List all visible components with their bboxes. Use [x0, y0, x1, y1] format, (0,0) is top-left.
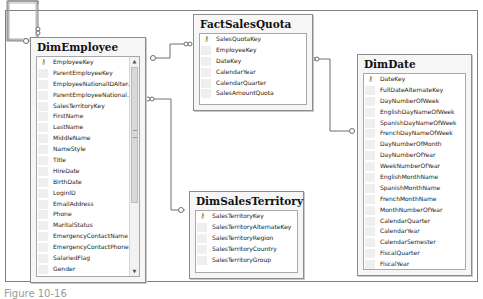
row-selector[interactable]	[365, 97, 375, 106]
column-row[interactable]: FullDateAlternateKey	[364, 85, 465, 96]
column-row[interactable]: Gender	[37, 264, 139, 275]
column-row[interactable]: SalariedFlag	[37, 253, 139, 264]
column-row[interactable]: DayNumberOfMonth	[364, 139, 465, 150]
row-selector[interactable]	[365, 173, 375, 182]
column-row[interactable]: NameStyle	[37, 144, 139, 155]
column-row[interactable]: CalendarQuarter	[364, 216, 465, 227]
column-row[interactable]: FiscalYear	[364, 259, 465, 270]
table-dim-sales-territory[interactable]: DimSalesTerritory ⚷SalesTerritoryKeySale…	[189, 191, 304, 279]
row-selector[interactable]	[38, 210, 48, 219]
row-selector[interactable]	[365, 227, 375, 236]
column-row[interactable]: WeekNumberOfYear	[364, 161, 465, 172]
row-selector[interactable]	[38, 254, 48, 263]
row-selector[interactable]	[38, 232, 48, 241]
column-row[interactable]: Title	[37, 155, 139, 166]
column-row[interactable]: ⚷DateKey	[364, 74, 465, 85]
column-row[interactable]: SalesTerritoryAlternateKey	[196, 222, 297, 233]
row-selector[interactable]	[38, 102, 48, 111]
row-selector[interactable]	[38, 80, 48, 89]
row-selector[interactable]	[38, 156, 48, 165]
row-selector[interactable]	[365, 195, 375, 204]
column-row[interactable]: SpanishMonthName	[364, 183, 465, 194]
column-row[interactable]: BirthDate	[37, 177, 139, 188]
column-row[interactable]: CalendarYear	[200, 67, 306, 78]
column-row[interactable]: EmergencyContactPhone	[37, 242, 139, 253]
column-row[interactable]: SalesTerritoryGroup	[196, 255, 297, 266]
row-selector[interactable]	[38, 69, 48, 78]
column-row[interactable]: CalendarSemester	[364, 237, 465, 248]
column-row[interactable]: SalesTerritoryRegion	[196, 233, 297, 244]
scroll-down-icon[interactable]: ▼	[130, 267, 139, 276]
column-row[interactable]: SalesTerritoryCountry	[196, 244, 297, 255]
column-row[interactable]: MonthNumberOfYear	[364, 205, 465, 216]
row-selector[interactable]	[365, 206, 375, 215]
row-selector[interactable]	[201, 79, 211, 88]
vertical-scrollbar[interactable]: ▲ ▼	[129, 57, 139, 276]
column-row[interactable]: ParentEmployeeKey	[37, 68, 139, 79]
row-selector[interactable]	[38, 221, 48, 230]
row-selector[interactable]	[38, 276, 48, 277]
row-selector[interactable]	[365, 260, 375, 269]
row-selector[interactable]	[38, 243, 48, 252]
column-row[interactable]: EnglishDayNameOfWeek	[364, 107, 465, 118]
column-row[interactable]: SpanishDayNameOfWeek	[364, 118, 465, 129]
row-selector[interactable]	[197, 234, 207, 243]
row-selector[interactable]	[38, 265, 48, 274]
row-selector[interactable]	[201, 89, 211, 98]
column-row[interactable]: Phone	[37, 209, 139, 220]
column-row[interactable]: EmployeeNationalIDAlter...	[37, 79, 139, 90]
column-row[interactable]: EmployeeKey	[200, 45, 306, 56]
column-row[interactable]: PayFrequency	[37, 275, 139, 277]
column-row[interactable]: SalesTerritoryKey	[37, 101, 139, 112]
row-selector[interactable]	[365, 184, 375, 193]
row-selector[interactable]	[365, 129, 375, 138]
scroll-up-icon[interactable]: ▲	[130, 57, 139, 66]
row-selector[interactable]	[365, 108, 375, 117]
row-selector[interactable]	[365, 151, 375, 160]
row-selector[interactable]	[197, 223, 207, 232]
row-selector[interactable]	[38, 167, 48, 176]
column-row[interactable]: EnglishMonthName	[364, 172, 465, 183]
row-selector[interactable]	[38, 123, 48, 132]
row-selector[interactable]	[365, 140, 375, 149]
column-row[interactable]: MiddleName	[37, 133, 139, 144]
row-selector[interactable]	[38, 134, 48, 143]
column-row[interactable]: HireDate	[37, 166, 139, 177]
column-row[interactable]: FiscalQuarter	[364, 248, 465, 259]
column-row[interactable]: DayNumberOfWeek	[364, 96, 465, 107]
column-row[interactable]: ⚷SalesQuotaKey	[200, 34, 306, 45]
table-dim-employee[interactable]: DimEmployee ⚷EmployeeKeyParentEmployeeKe…	[30, 37, 146, 283]
row-selector[interactable]	[365, 217, 375, 226]
row-selector[interactable]	[365, 162, 375, 171]
column-row[interactable]: ⚷EmployeeKey	[37, 57, 139, 68]
row-selector[interactable]	[201, 68, 211, 77]
column-row[interactable]: FrenchMonthName	[364, 194, 465, 205]
table-fact-sales-quota[interactable]: FactSalesQuota ⚷SalesQuotaKeyEmployeeKey…	[193, 14, 313, 111]
row-selector[interactable]	[197, 256, 207, 265]
row-selector[interactable]	[38, 200, 48, 209]
row-selector[interactable]	[365, 238, 375, 247]
row-selector[interactable]	[38, 112, 48, 121]
column-row[interactable]: EmailAddress	[37, 199, 139, 210]
row-selector[interactable]	[38, 145, 48, 154]
row-selector[interactable]	[38, 91, 48, 100]
row-selector[interactable]	[201, 46, 211, 55]
row-selector[interactable]	[38, 178, 48, 187]
column-row[interactable]: DateKey	[200, 56, 306, 67]
row-selector[interactable]	[201, 57, 211, 66]
row-selector[interactable]	[38, 189, 48, 198]
row-selector[interactable]	[365, 86, 375, 95]
column-row[interactable]: DayNumberOfYear	[364, 150, 465, 161]
row-selector[interactable]	[365, 249, 375, 258]
column-row[interactable]: ParentEmployeeNational...	[37, 90, 139, 101]
column-row[interactable]: LoginID	[37, 188, 139, 199]
row-selector[interactable]	[197, 245, 207, 254]
column-row[interactable]: CalendarYear	[364, 226, 465, 237]
scroll-thumb[interactable]	[131, 67, 138, 203]
column-row[interactable]: LastName	[37, 122, 139, 133]
column-row[interactable]: MaritalStatus	[37, 220, 139, 231]
column-row[interactable]: SalesAmountQuota	[200, 88, 306, 99]
row-selector[interactable]	[365, 119, 375, 128]
column-row[interactable]: FirstName	[37, 111, 139, 122]
column-row[interactable]: EmergencyContactName	[37, 231, 139, 242]
